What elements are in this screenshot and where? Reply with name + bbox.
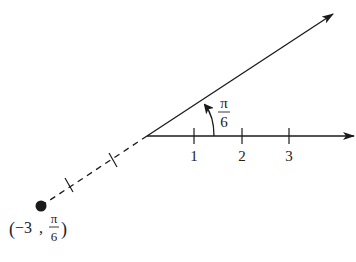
point-label-r: −3 (15, 219, 32, 236)
point-label-theta-numerator: π (51, 211, 58, 226)
polar-diagram: 1 2 3 π 6 ( −3 , π 6 ) (0, 0, 356, 262)
angle-arc-arrow (205, 105, 214, 136)
angle-label-denominator: 6 (220, 114, 228, 130)
angle-label-numerator: π (220, 95, 228, 111)
point-label-theta-denominator: 6 (51, 229, 58, 244)
axis-label-3: 3 (285, 148, 293, 164)
axis-label-2: 2 (238, 148, 246, 164)
dashed-extension (44, 136, 147, 204)
angle-ray (147, 14, 333, 136)
axis-label-1: 1 (190, 148, 198, 164)
dashed-tick-1 (109, 153, 117, 167)
point-label-sep: , (39, 219, 43, 236)
point-label-close-paren: ) (61, 219, 67, 240)
diagram-canvas: 1 2 3 π 6 ( −3 , π 6 ) (0, 0, 356, 262)
polar-point (36, 201, 47, 212)
